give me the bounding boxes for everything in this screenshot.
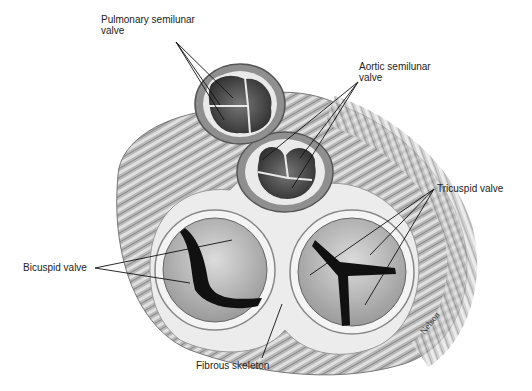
label-fibrous-skeleton: Fibrous skeleton: [196, 360, 269, 371]
aortic-valve: [237, 132, 333, 212]
label-pulmonary-valve: Pulmonary semilunar valve: [101, 14, 195, 36]
heart-illustration: [0, 0, 532, 391]
label-line-1: Pulmonary semilunar: [101, 14, 195, 25]
bicuspid-valve: [155, 210, 275, 330]
label-tricuspid-valve: Tricuspid valve: [437, 183, 503, 194]
label-line-2: valve: [101, 25, 195, 36]
label-aortic-valve: Aortic semilunar valve: [359, 61, 431, 83]
pulmonary-valve: [195, 64, 285, 144]
heart-valve-diagram: Pulmonary semilunar valve Aortic semilun…: [0, 0, 532, 391]
label-line-1: Aortic semilunar: [359, 61, 431, 72]
label-bicuspid-valve: Bicuspid valve: [23, 262, 87, 273]
label-line-2: valve: [359, 72, 431, 83]
